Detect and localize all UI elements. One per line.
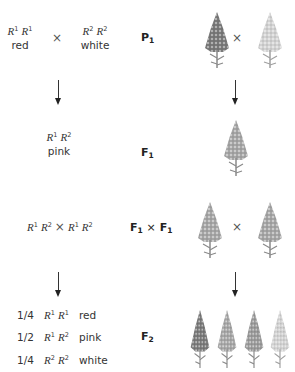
red-plant-icon bbox=[199, 10, 235, 70]
white-plant-icon bbox=[252, 10, 288, 70]
pink-plant-icon bbox=[192, 200, 228, 260]
f1-cross-symbol: × bbox=[55, 220, 65, 234]
parent-left-phenotype: red bbox=[4, 39, 36, 51]
pink-plant-icon bbox=[213, 308, 241, 370]
ratio-fraction: 1/4 bbox=[17, 309, 44, 321]
arrow-down-icon bbox=[58, 80, 59, 100]
generation-label-f2: F2 bbox=[141, 330, 154, 343]
ratio-phenotype: red bbox=[79, 309, 96, 321]
pink-plant-icon bbox=[252, 200, 288, 260]
f2-ratio-row: 1/4R1 R1red bbox=[17, 309, 96, 321]
parent-right-genotype: R2 R2 bbox=[78, 25, 112, 37]
pink-plant-icon bbox=[240, 308, 268, 370]
ratio-genotype: R2 R2 bbox=[44, 354, 79, 366]
arrow-down-icon bbox=[235, 272, 236, 292]
pink-plant-icon bbox=[218, 118, 254, 178]
f1-cross-right-genotype: R1 R2 bbox=[68, 222, 93, 233]
arrow-down-icon bbox=[235, 80, 236, 100]
plant-cross-symbol: × bbox=[232, 220, 242, 234]
white-plant-icon bbox=[266, 308, 294, 370]
parent-cross-symbol: × bbox=[52, 31, 62, 45]
f1-phenotype: pink bbox=[42, 145, 76, 157]
plant-cross-symbol: × bbox=[232, 31, 242, 45]
ratio-genotype: R1 R1 bbox=[44, 309, 79, 321]
f2-ratio-row: 1/2R1 R2pink bbox=[17, 331, 101, 343]
parent-left-genotype: R1 R1 bbox=[4, 25, 36, 37]
generation-label-p1: P1 bbox=[141, 31, 154, 44]
red-plant-icon bbox=[186, 308, 214, 370]
ratio-fraction: 1/2 bbox=[17, 331, 44, 343]
f2-ratio-row: 1/4R2 R2white bbox=[17, 354, 108, 366]
ratio-genotype: R1 R2 bbox=[44, 331, 79, 343]
f1-cross-left-genotype: R1 R2 bbox=[27, 222, 52, 233]
generation-label-f1: F1 bbox=[141, 146, 154, 159]
f1-genotype: R1 R2 bbox=[42, 131, 76, 143]
parent-right-phenotype: white bbox=[78, 39, 112, 51]
generation-label-f1-cross: F1 × F1 bbox=[130, 221, 172, 234]
ratio-phenotype: white bbox=[79, 354, 108, 366]
f1-cross-genotypes: R1 R2 × R1 R2 bbox=[27, 220, 93, 234]
ratio-phenotype: pink bbox=[79, 331, 101, 343]
ratio-fraction: 1/4 bbox=[17, 354, 44, 366]
arrow-down-icon bbox=[58, 272, 59, 292]
